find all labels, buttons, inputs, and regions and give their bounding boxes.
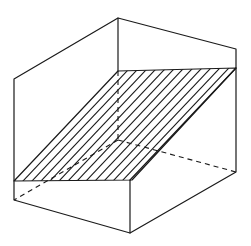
- box-outline: [14, 18, 236, 233]
- hatch-line: [57, 48, 203, 202]
- hatch-line: [11, 49, 157, 203]
- box-visible-edges: [14, 18, 236, 233]
- box-section-diagram: [0, 0, 251, 246]
- back-bottom-left-edge-hidden: [14, 140, 118, 200]
- hatch-line: [48, 49, 194, 203]
- hatch-line: [66, 48, 212, 202]
- hatch-line: [30, 49, 176, 203]
- hatched-plane: [2, 48, 247, 203]
- hatch-line: [75, 48, 221, 202]
- hatch-line: [93, 48, 239, 202]
- hatch-line: [20, 49, 166, 203]
- hatch-line: [84, 48, 230, 202]
- diagram-stage: [0, 0, 251, 246]
- hatch-line: [39, 49, 185, 203]
